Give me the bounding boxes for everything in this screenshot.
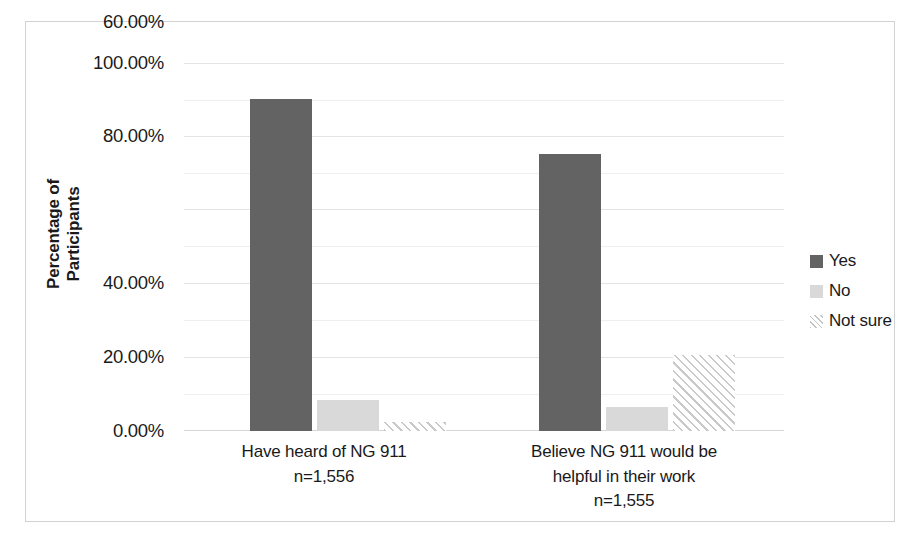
bar-have-heard-no[interactable]	[317, 400, 379, 431]
y-tick-80: 80.00%	[64, 125, 164, 147]
y-tick-20: 20.00%	[64, 346, 164, 368]
legend-item-no[interactable]: No	[810, 276, 916, 306]
x-category-believe-helpful-line1: Believe NG 911 would be	[484, 440, 764, 465]
bar-believe-helpful-not-sure[interactable]	[673, 355, 735, 431]
bar-believe-helpful-no[interactable]	[606, 407, 668, 431]
x-category-believe-helpful-line2: helpful in their work	[484, 465, 764, 490]
bar-have-heard-not-sure[interactable]	[384, 422, 446, 431]
legend-label-yes: Yes	[829, 251, 856, 271]
legend-label-not-sure: Not sure	[829, 311, 892, 331]
legend-item-not-sure[interactable]: Not sure	[810, 306, 916, 336]
legend-swatch-yes-icon	[810, 255, 823, 268]
x-axis-category-labels: Have heard of NG 911 n=1,556 Believe NG …	[184, 440, 784, 525]
x-category-have-heard-line1: Have heard of NG 911	[184, 440, 464, 465]
bar-group-have-heard	[184, 42, 464, 431]
x-category-believe-helpful: Believe NG 911 would be helpful in their…	[484, 440, 764, 514]
legend-swatch-not-sure-icon	[810, 315, 823, 328]
plot-area	[184, 42, 784, 431]
legend-swatch-no-icon	[810, 285, 823, 298]
bar-group-believe-helpful	[484, 42, 764, 431]
y-tick-0: 0.00%	[64, 420, 164, 442]
y-axis-tick-labels: 100.00% 80.00% 60.00% 40.00% 20.00% 0.00…	[54, 22, 164, 521]
x-category-believe-helpful-line3: n=1,555	[484, 489, 764, 514]
y-tick-100: 100.00%	[64, 52, 164, 74]
y-tick-40: 40.00%	[64, 272, 164, 294]
legend-item-yes[interactable]: Yes	[810, 246, 916, 276]
chart-legend: Yes No Not sure	[810, 246, 916, 336]
bar-have-heard-yes[interactable]	[250, 99, 312, 432]
chart-container: Percentage of Participants 100.00% 80.00…	[25, 21, 895, 522]
y-tick-60: 60.00%	[64, 11, 164, 33]
x-category-have-heard: Have heard of NG 911 n=1,556	[184, 440, 464, 489]
legend-label-no: No	[829, 281, 850, 301]
bar-believe-helpful-yes[interactable]	[539, 154, 601, 431]
x-category-have-heard-line2: n=1,556	[184, 465, 464, 490]
